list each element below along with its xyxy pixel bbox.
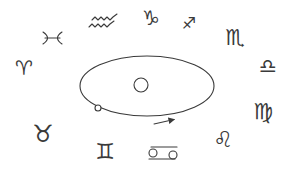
- libra-icon: ♎︎: [259, 56, 277, 76]
- sun-icon: [134, 78, 148, 92]
- taurus-icon: ♉︎: [32, 122, 54, 146]
- sagittarius-icon: ♐︎: [182, 16, 196, 32]
- virgo-icon: ♍︎: [253, 101, 273, 123]
- aquarius-icon: [89, 14, 117, 27]
- pisces-icon: [43, 32, 62, 44]
- gemini-icon: ♊︎: [95, 141, 115, 163]
- zodiac-diagram: ♈︎♉︎♊︎♌︎♍︎♎︎♏︎♐︎♑︎: [0, 0, 296, 170]
- direction-arrow-icon: [154, 120, 174, 125]
- cancer-icon: [149, 147, 177, 159]
- planet-icon: [95, 105, 101, 111]
- aries-icon: ♈︎: [15, 58, 33, 78]
- leo-icon: ♌︎: [213, 129, 233, 151]
- scorpio-icon: ♏︎: [225, 27, 245, 49]
- capricorn-icon: ♑︎: [142, 8, 160, 28]
